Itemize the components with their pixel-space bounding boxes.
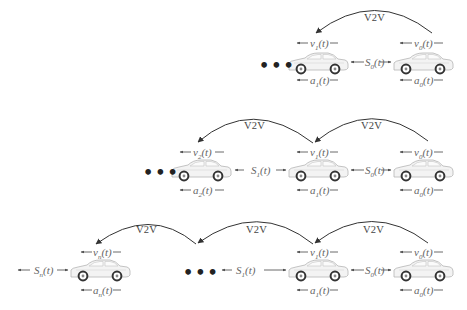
- ellipsis: •••: [183, 268, 220, 278]
- acceleration-label-a1: a1(t): [310, 74, 329, 91]
- acceleration-label-an: an(t): [93, 284, 112, 301]
- vehicle-1-icon: [289, 53, 348, 73]
- velocity-label-v0: v0(t): [414, 146, 433, 163]
- velocity-label-v0: v0(t): [414, 246, 433, 263]
- spacing-label-sn: Sn(t): [34, 264, 53, 281]
- ellipsis: •••: [143, 168, 180, 178]
- acceleration-label-a0: a0(t): [414, 184, 433, 201]
- v2v-label: V2V: [364, 12, 385, 23]
- velocity-label-v0: v0(t): [414, 37, 433, 54]
- spacing-label-s1: S1(t): [251, 164, 270, 181]
- platoon-diagram: [0, 0, 467, 310]
- acceleration-label-a1: a1(t): [310, 184, 329, 201]
- velocity-label-v2: v2(t): [193, 146, 212, 163]
- acceleration-label-a2: a2(t): [193, 184, 212, 201]
- velocity-label-v1: v1(t): [310, 37, 329, 54]
- spacing-label-s0: S0(t): [365, 164, 384, 181]
- velocity-label-v1: v1(t): [310, 146, 329, 163]
- v2v-label: V2V: [246, 224, 267, 235]
- vehicle-0-icon: [394, 53, 453, 73]
- velocity-label-vn: vn(t): [93, 246, 112, 263]
- v2v-label: V2V: [136, 224, 157, 235]
- velocity-label-v1: v1(t): [310, 246, 329, 263]
- acceleration-label-a0: a0(t): [414, 74, 433, 91]
- v2v-label: V2V: [244, 120, 265, 131]
- v2v-label: V2V: [363, 224, 384, 235]
- v2v-label: V2V: [361, 120, 382, 131]
- acceleration-label-a1: a1(t): [310, 284, 329, 301]
- acceleration-label-a0: a0(t): [414, 284, 433, 301]
- spacing-label-s0: S0(t): [365, 264, 384, 281]
- spacing-label-s0: S0(t): [365, 56, 384, 73]
- spacing-label-s1: S1(t): [236, 264, 255, 281]
- ellipsis: •••: [259, 61, 296, 71]
